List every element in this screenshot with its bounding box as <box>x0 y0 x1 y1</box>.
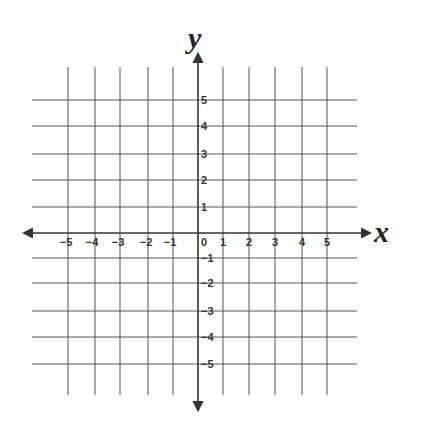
y-tick-m5: −5 <box>201 358 214 370</box>
y-tick-m4: −4 <box>201 331 214 343</box>
x-tick-m4: −4 <box>86 236 99 248</box>
x-tick-m1: −1 <box>164 236 177 248</box>
y-tick-p2: 2 <box>201 174 207 186</box>
grid <box>32 67 357 395</box>
y-axis-label: y <box>185 21 202 54</box>
y-tick-p3: 3 <box>201 148 207 160</box>
origin-label: 0 <box>201 236 207 248</box>
x-tick-p5: 5 <box>324 236 330 248</box>
y-tick-labels: 5 4 3 2 1 −1 −2 −3 −4 −5 <box>201 94 214 370</box>
y-tick-p1: 1 <box>201 201 207 213</box>
x-tick-m2: −2 <box>140 236 153 248</box>
x-tick-p3: 3 <box>272 236 278 248</box>
y-tick-m1: −1 <box>201 252 214 264</box>
x-axis-label: x <box>373 215 389 248</box>
x-tick-m3: −3 <box>112 236 125 248</box>
x-tick-p1: 1 <box>220 236 226 248</box>
y-tick-p4: 4 <box>201 120 208 132</box>
y-tick-m2: −2 <box>201 277 214 289</box>
coordinate-plane: x y −5 −4 −3 −2 −1 0 1 2 3 4 5 5 4 3 2 1… <box>0 0 421 431</box>
y-tick-m3: −3 <box>201 305 214 317</box>
x-tick-p4: 4 <box>299 236 306 248</box>
x-tick-m5: −5 <box>60 236 73 248</box>
y-tick-p5: 5 <box>201 94 207 106</box>
x-tick-labels: −5 −4 −3 −2 −1 0 1 2 3 4 5 <box>60 236 330 248</box>
x-tick-p2: 2 <box>246 236 252 248</box>
